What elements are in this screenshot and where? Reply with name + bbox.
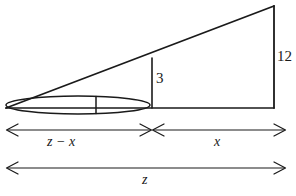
figure-canvas [0,0,296,196]
total-length-label: z [142,173,147,187]
left-segment-label: z − x [47,135,75,149]
geometry-figure: 12 3 z − x x z [0,0,296,196]
right-segment-label: x [214,135,220,149]
lamppost-height-label: 12 [277,49,292,64]
boat-hull-ellipse [6,96,150,114]
triangle-hypotenuse [6,6,274,108]
pole-height-label: 3 [156,71,164,86]
